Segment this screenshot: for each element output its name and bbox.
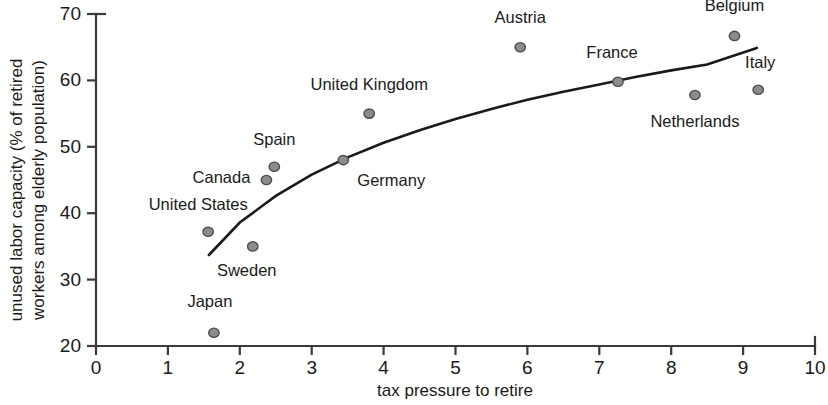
data-point-label: Netherlands [650, 112, 739, 130]
data-point-canada: Canada [193, 168, 272, 186]
data-point-label: Japan [187, 292, 232, 310]
data-point-sweden: Sweden [217, 242, 277, 280]
data-point-japan: Japan [187, 292, 232, 338]
y-axis-title-line1: unused labor capacity (% of retired [7, 59, 26, 322]
data-point-label: Germany [357, 171, 426, 189]
data-marker [269, 162, 279, 171]
x-tick-label: 3 [306, 357, 317, 378]
x-tick-label: 9 [738, 357, 749, 378]
y-tick-label: 20 [60, 335, 81, 356]
data-point-united-kingdom: United Kingdom [311, 75, 428, 119]
data-points: JapanUnited StatesSwedenCanadaSpainGerma… [149, 0, 776, 337]
data-point-label: Austria [495, 8, 547, 26]
y-tick-label: 60 [60, 69, 81, 90]
x-tick-label: 8 [666, 357, 677, 378]
data-marker [729, 31, 739, 40]
x-tick-label: 7 [594, 357, 605, 378]
data-point-italy: Italy [745, 53, 776, 95]
data-marker [209, 328, 219, 337]
x-tick-label: 0 [91, 357, 102, 378]
x-tick-labels: 012345678910 [91, 357, 826, 378]
data-marker [261, 175, 271, 184]
data-point-label: Canada [193, 168, 252, 186]
trend-curve [209, 48, 757, 255]
data-marker [364, 109, 374, 118]
data-marker [690, 90, 700, 99]
x-axis-title: tax pressure to retire [377, 381, 533, 400]
y-axis-title: unused labor capacity (% of retired work… [7, 59, 48, 322]
data-marker [515, 43, 525, 52]
data-point-label: Italy [745, 53, 776, 71]
data-point-france: France [586, 43, 637, 87]
data-point-label: Sweden [217, 261, 277, 279]
x-tick-label: 2 [235, 357, 246, 378]
data-marker [248, 242, 258, 251]
data-point-label: Belgium [705, 0, 765, 14]
x-tick-label: 6 [522, 357, 533, 378]
y-tick-label: 70 [60, 3, 81, 24]
y-tick-label: 30 [60, 269, 81, 290]
x-tick-label: 4 [378, 357, 389, 378]
data-point-label: United States [149, 195, 248, 213]
data-point-label: Spain [253, 130, 295, 148]
y-tick-label: 50 [60, 136, 81, 157]
data-marker [613, 77, 623, 86]
x-tick-label: 10 [804, 357, 825, 378]
y-tick-label: 40 [60, 202, 81, 223]
trend-line [209, 48, 757, 255]
data-marker [203, 227, 213, 236]
data-point-spain: Spain [253, 130, 295, 172]
data-marker [753, 85, 763, 94]
x-tick-label: 5 [450, 357, 461, 378]
data-point-label: United Kingdom [311, 75, 428, 93]
data-point-netherlands: Netherlands [650, 90, 739, 130]
data-point-austria: Austria [495, 8, 547, 52]
data-point-belgium: Belgium [705, 0, 765, 41]
data-point-label: France [586, 43, 637, 61]
x-tick-label: 1 [163, 357, 174, 378]
data-marker [338, 155, 348, 164]
data-point-germany: Germany [338, 155, 426, 189]
y-tick-labels: 203040506070 [60, 3, 81, 356]
scatter-chart: unused labor capacity (% of retired work… [0, 0, 828, 405]
y-axis-title-line2: workers among elderly population) [29, 60, 48, 321]
plot-area: unused labor capacity (% of retired work… [0, 0, 828, 405]
